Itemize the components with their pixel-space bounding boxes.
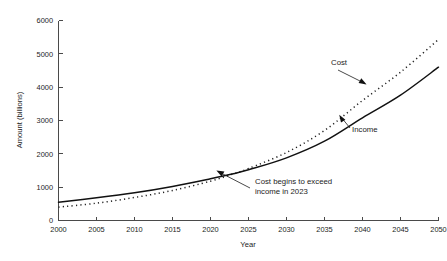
x-tick-label-2025: 2025 <box>240 225 256 234</box>
x-tick-label-2015: 2015 <box>164 225 180 234</box>
crossover-text-line1: Cost begins to exceed <box>255 177 332 186</box>
series-group <box>59 40 439 208</box>
y-tick-label-0: 0 <box>49 216 53 225</box>
x-axis-title: Year <box>240 240 256 249</box>
y-tick-label-5000: 5000 <box>37 50 53 59</box>
series-line-income <box>59 67 439 202</box>
series-line-cost <box>59 40 439 208</box>
line-chart: 0 1000 2000 3000 4000 5000 6000 2000 200… <box>0 0 447 261</box>
y-tick-labels: 0 1000 2000 3000 4000 5000 6000 <box>37 16 53 225</box>
x-tick-label-2010: 2010 <box>126 225 142 234</box>
series-label-income: Income <box>352 125 378 134</box>
x-tick-labels: 2000 2005 2010 2015 2020 2025 2030 2035 … <box>50 225 446 234</box>
x-tick-label-2030: 2030 <box>278 225 294 234</box>
x-tick-label-2005: 2005 <box>88 225 104 234</box>
y-tick-label-4000: 4000 <box>37 83 53 92</box>
y-axis-title: Amount (billions) <box>15 91 24 148</box>
chart-container: 0 1000 2000 3000 4000 5000 6000 2000 200… <box>0 0 447 261</box>
x-tick-label-2040: 2040 <box>354 225 370 234</box>
y-tick-marks <box>59 21 63 221</box>
cost-arrow-head <box>359 78 367 84</box>
x-tick-label-2035: 2035 <box>316 225 332 234</box>
annotation-cost: Cost <box>331 58 367 84</box>
x-tick-label-2050: 2050 <box>430 225 446 234</box>
x-tick-label-2020: 2020 <box>202 225 218 234</box>
crossover-text-line2: income in 2023 <box>255 187 308 196</box>
x-tick-marks <box>59 217 439 221</box>
axes-group <box>59 21 439 221</box>
series-label-cost: Cost <box>331 58 348 67</box>
crossover-leader-line <box>219 172 250 188</box>
y-tick-label-3000: 3000 <box>37 116 53 125</box>
annotation-income: Income <box>339 115 377 134</box>
y-tick-label-1000: 1000 <box>37 183 53 192</box>
x-tick-label-2000: 2000 <box>50 225 66 234</box>
y-tick-label-6000: 6000 <box>37 16 53 25</box>
y-tick-label-2000: 2000 <box>37 150 53 159</box>
x-tick-label-2045: 2045 <box>392 225 408 234</box>
